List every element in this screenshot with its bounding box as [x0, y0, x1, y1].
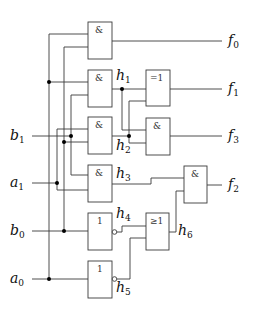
junction-dot — [69, 134, 73, 138]
gate-symbol: & — [95, 120, 103, 130]
gate-and-h3: & — [88, 165, 112, 202]
bus-a0 — [49, 34, 88, 279]
label-h3: h3 — [116, 165, 131, 183]
label-h1: h1 — [116, 67, 131, 85]
logic-circuit-diagram: & & =1 & & & & 1 ≥1 1 b1 a1 b0 — [0, 0, 253, 315]
gate-xor-f1: =1 — [146, 70, 170, 106]
wire-h2-up — [129, 101, 146, 136]
gate-symbol: ≥1 — [150, 216, 163, 226]
label-h5: h5 — [116, 279, 131, 297]
gate-not-h4: 1 — [88, 213, 117, 250]
gate-symbol: 1 — [97, 216, 103, 226]
junction-dot — [127, 134, 131, 138]
gate-and-f2: & — [184, 166, 207, 203]
input-labels: b1 a1 b0 a0 — [10, 127, 25, 288]
bus-a1 — [57, 129, 88, 190]
label-h4: h4 — [116, 205, 131, 223]
wires — [32, 34, 222, 279]
junction-dot — [47, 277, 51, 281]
bus-b1 — [71, 95, 88, 175]
gate-symbol: & — [191, 169, 199, 179]
gate-symbol: =1 — [150, 73, 163, 83]
gate-symbol: & — [95, 25, 103, 35]
junction-dot — [55, 181, 59, 185]
gate-and-f0: & — [88, 22, 112, 59]
label-b1: b1 — [10, 127, 25, 145]
label-f3: f3 — [227, 127, 239, 145]
gate-not-h5: 1 — [88, 261, 117, 298]
gate-and-h1: & — [88, 70, 112, 107]
gate-symbol: 1 — [97, 264, 103, 274]
wire-h1-down — [122, 89, 146, 130]
label-f2: f2 — [227, 176, 239, 194]
wire-h4 — [117, 226, 146, 232]
gate-and-h2: & — [88, 117, 112, 154]
label-f0: f0 — [227, 32, 239, 50]
gate-or-h6: ≥1 — [146, 213, 169, 250]
label-a0: a0 — [10, 270, 24, 288]
junction-dot — [62, 140, 66, 144]
gate-symbol: & — [95, 168, 103, 178]
gate-symbol: & — [153, 121, 161, 131]
junction-dot — [120, 87, 124, 91]
label-b0: b0 — [10, 222, 25, 240]
inverter-bubble — [112, 230, 117, 235]
output-labels: f0 f1 f3 f2 — [227, 32, 239, 194]
label-a1: a1 — [10, 174, 24, 192]
label-h6: h6 — [178, 222, 193, 240]
bus-b0 — [64, 47, 88, 231]
wire-h5 — [117, 238, 146, 279]
gate-symbol: & — [95, 73, 103, 83]
label-f1: f1 — [227, 80, 239, 98]
gate-and-f3: & — [146, 118, 170, 155]
junction-dot — [62, 229, 66, 233]
junction-dot — [47, 80, 51, 84]
